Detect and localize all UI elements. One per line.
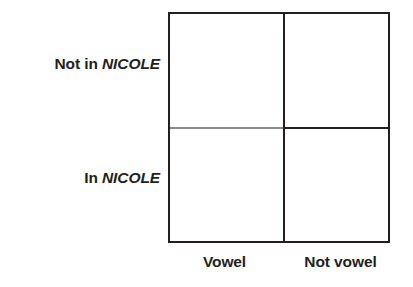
classification-matrix-figure: Not in NICOLE In NICOLE Vowel Not vowel — [0, 0, 413, 287]
row-label-not-in-term: NICOLE — [102, 55, 160, 72]
column-label-vowel: Vowel — [168, 253, 281, 271]
matrix-grid — [168, 12, 390, 243]
row-label-in-prefix: In — [84, 169, 102, 186]
grid-divider-horizontal — [170, 127, 388, 129]
row-label-not-in-nicole: Not in NICOLE — [0, 55, 160, 73]
row-label-not-in-prefix: Not in — [55, 55, 103, 72]
cell-not-vowel-not-in-nicole[interactable] — [285, 14, 388, 127]
cell-vowel-in-nicole[interactable] — [170, 129, 283, 241]
cell-vowel-not-in-nicole[interactable] — [170, 14, 283, 127]
row-label-in-nicole: In NICOLE — [0, 169, 160, 187]
row-label-in-term: NICOLE — [102, 169, 160, 186]
cell-not-vowel-in-nicole[interactable] — [285, 129, 388, 241]
column-label-not-vowel: Not vowel — [283, 253, 398, 271]
